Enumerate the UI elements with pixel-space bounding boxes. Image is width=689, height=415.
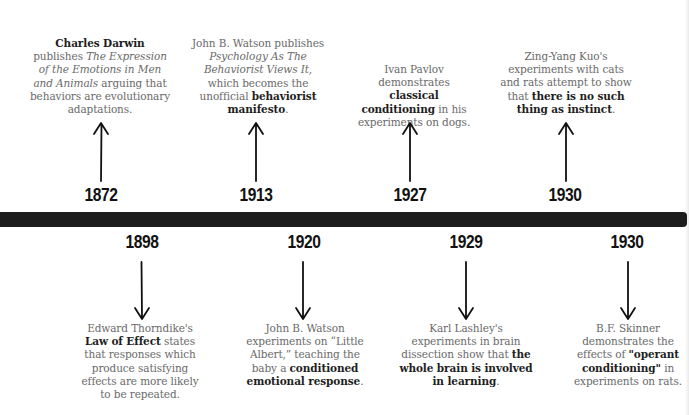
timeline-bar <box>0 212 687 227</box>
event-year: 1929 <box>433 231 499 253</box>
event-description: Edward Thorndike's Law of Effect states … <box>78 322 202 401</box>
event-description: Zing-Yang Kuo's experiments with cats an… <box>498 50 634 116</box>
event-description: Charles Darwin publishes The Expression … <box>30 37 170 116</box>
arrow-down-icon <box>132 261 152 321</box>
event-year: 1930 <box>594 231 660 253</box>
arrow-up-icon <box>91 121 111 183</box>
event-year: 1920 <box>271 231 337 253</box>
event-description: Ivan Pavlov demonstrates classical condi… <box>352 63 476 129</box>
arrow-up-icon <box>246 121 266 183</box>
event-year: 1913 <box>223 184 289 206</box>
arrow-up-icon <box>556 121 576 183</box>
event-description: B.F. Skinner demonstrates the effects of… <box>568 322 688 388</box>
arrow-down-icon <box>618 261 638 321</box>
event-year: 1930 <box>532 184 598 206</box>
arrow-down-icon <box>456 261 476 321</box>
event-year: 1927 <box>377 184 443 206</box>
event-description: John B. Watson publishes Psychology As T… <box>187 37 329 116</box>
arrow-down-icon <box>293 261 313 321</box>
event-year: 1898 <box>109 231 175 253</box>
arrow-up-icon <box>400 121 420 183</box>
event-description: Karl Lashley's experiments in brain diss… <box>398 322 534 388</box>
event-description: John B. Watson experiments on “Little Al… <box>240 322 370 388</box>
event-year: 1872 <box>68 184 134 206</box>
